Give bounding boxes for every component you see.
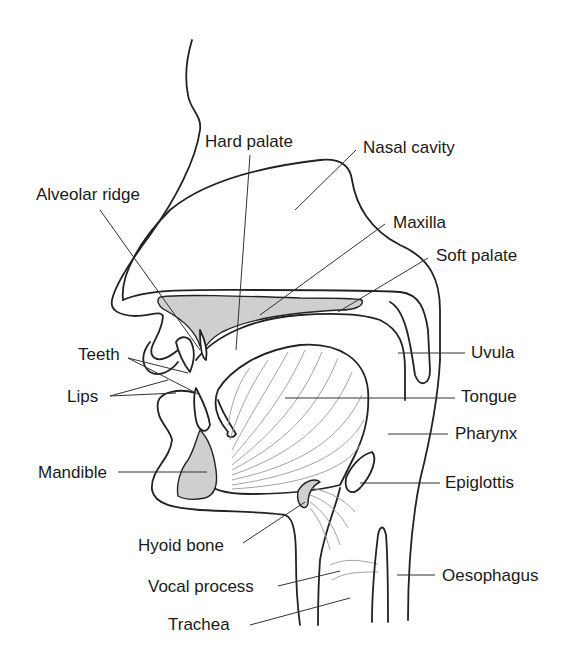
label-hyoid-bone: Hyoid bone: [138, 536, 224, 555]
label-epiglottis: Epiglottis: [445, 473, 514, 492]
lower-tooth: [194, 388, 210, 431]
label-soft-palate: Soft palate: [436, 246, 517, 265]
upper-tooth: [176, 337, 194, 372]
label-alveolar-ridge: Alveolar ridge: [36, 185, 140, 204]
label-uvula: Uvula: [471, 343, 515, 362]
label-maxilla: Maxilla: [393, 213, 446, 232]
hyoid-muscle-fibres: [310, 488, 355, 550]
label-pharynx: Pharynx: [455, 424, 518, 443]
label-nasal-cavity: Nasal cavity: [363, 138, 455, 157]
tongue-outline: [205, 345, 368, 494]
nasal-cavity-outline: [123, 160, 440, 360]
oesophagus-wall: [372, 528, 388, 623]
label-lips: Lips: [67, 387, 98, 406]
label-trachea: Trachea: [168, 615, 230, 634]
vocal-fold: [330, 560, 378, 565]
label-hard-palate: Hard palate: [205, 132, 293, 151]
vocal-fold-lower: [332, 572, 378, 580]
label-oesophagus: Oesophagus: [442, 566, 538, 585]
pharynx-back-wall: [408, 360, 440, 620]
mandible-bone: [177, 430, 216, 499]
label-tongue: Tongue: [461, 387, 517, 406]
label-teeth: Teeth: [78, 345, 120, 364]
larynx-front-wall: [318, 488, 340, 625]
vocal-tract-diagram: Hard palate Nasal cavity Alveolar ridge …: [0, 0, 579, 663]
chin-neck: [200, 510, 300, 625]
label-vocal-process: Vocal process: [148, 577, 254, 596]
label-mandible: Mandible: [38, 463, 107, 482]
